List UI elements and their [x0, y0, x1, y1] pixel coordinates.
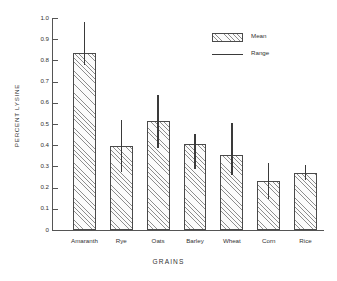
legend-swatch-range-icon [212, 54, 243, 55]
bar-group [147, 18, 170, 230]
lysine-bar-chart: PERCENT LYSINE 1.00.90.80.70.60.50.40.30… [0, 0, 337, 281]
range-whisker-oats [157, 95, 158, 148]
y-tick-label: 0.2 [40, 183, 49, 190]
y-tick: 0.6 [20, 103, 58, 104]
y-tick: 0.9 [20, 39, 58, 40]
y-tick-mark [52, 209, 58, 210]
x-tick-label-rice: Rice [266, 237, 337, 244]
y-tick-label: 0.5 [40, 120, 49, 127]
y-tick-mark [52, 103, 58, 104]
y-tick: 0.7 [20, 82, 58, 83]
x-axis-line [52, 230, 324, 231]
y-tick-label: 0.6 [40, 98, 49, 105]
y-tick: 0.3 [20, 166, 58, 167]
y-tick-label: 0.4 [40, 141, 49, 148]
y-tick-label: 0.1 [40, 204, 49, 211]
y-tick: 0.4 [20, 145, 58, 146]
legend: Mean Range [212, 31, 312, 65]
legend-item-mean: Mean [212, 31, 312, 48]
y-tick-label: 0 [46, 226, 49, 233]
y-tick-label: 0.7 [40, 77, 49, 84]
y-tick: 0.1 [20, 209, 58, 210]
y-tick: 1.0 [20, 18, 58, 19]
bar-group [110, 18, 133, 230]
range-whisker-amaranth [84, 22, 85, 64]
legend-swatch-mean-icon [212, 33, 243, 42]
y-tick-mark [52, 145, 58, 146]
y-tick: 0 [20, 230, 58, 231]
y-tick-mark [52, 124, 58, 125]
range-whisker-wheat [231, 123, 232, 175]
bar-rice [294, 173, 317, 230]
range-whisker-barley [194, 134, 195, 169]
legend-label-mean: Mean [251, 32, 266, 39]
y-tick-mark [52, 60, 58, 61]
y-tick-mark [52, 188, 58, 189]
y-axis-title: PERCENT LYSINE [13, 56, 20, 176]
bar-amaranth [73, 53, 96, 230]
range-whisker-corn [268, 163, 269, 199]
y-tick-label: 1.0 [40, 14, 49, 21]
legend-label-range: Range [251, 49, 269, 56]
y-tick-mark [52, 166, 58, 167]
y-tick-label: 0.8 [40, 56, 49, 63]
y-tick-mark [52, 18, 58, 19]
y-tick-mark [52, 82, 58, 83]
y-tick-mark [52, 230, 58, 231]
y-tick-label: 0.9 [40, 35, 49, 42]
y-tick: 0.8 [20, 60, 58, 61]
y-tick-mark [52, 39, 58, 40]
x-axis-title: GRAINS [0, 258, 337, 265]
y-tick-label: 0.3 [40, 162, 49, 169]
legend-item-range: Range [212, 48, 312, 65]
y-tick: 0.2 [20, 188, 58, 189]
y-tick: 0.5 [20, 124, 58, 125]
bar-group [73, 18, 96, 230]
bar-group [184, 18, 207, 230]
range-whisker-rice [305, 165, 306, 180]
range-whisker-rye [121, 120, 122, 172]
